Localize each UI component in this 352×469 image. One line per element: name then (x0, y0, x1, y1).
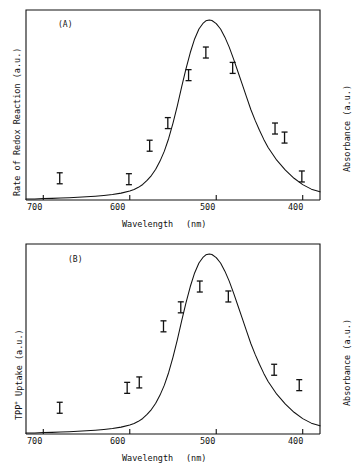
data-point-marker (186, 70, 192, 81)
panel-b-plot (0, 234, 351, 469)
panel-b-xtick-700: 700 (27, 436, 42, 446)
panel-b-y-right-title: Absorbance (a.u.) (342, 319, 352, 406)
panel-a-label: (A) (58, 20, 72, 29)
panel-a-x-units: (nm) (186, 219, 206, 229)
panel-a-xtick-600: 600 (110, 202, 125, 212)
panel-a-x-title: Wavelength (122, 219, 173, 229)
data-point-marker (203, 47, 209, 58)
panel-a-y-left-title: Rate of Redox Reaction (a.u.) (12, 48, 22, 196)
data-point-marker (197, 281, 203, 292)
panel-b: (B) TPP+ Uptake (a.u.) Absorbance (a.u.)… (0, 234, 351, 469)
plot-frame (26, 244, 320, 434)
panel-a-xtick-400: 400 (288, 202, 303, 212)
data-point-marker (57, 173, 63, 184)
panel-a-plot (0, 0, 351, 235)
panel-b-y-left-title-post: Uptake (a.u.) (14, 329, 24, 401)
panel-b-y-left-title-pre: TPP (14, 405, 24, 420)
spectrum-curve (26, 20, 320, 199)
panel-b-x-units: (nm) (186, 453, 206, 463)
panel-b-y-left-title-sup: + (12, 401, 19, 405)
data-point-marker (160, 321, 166, 332)
data-point-marker (225, 291, 231, 302)
data-point-marker (271, 364, 277, 375)
panel-a-xtick-500: 500 (200, 202, 215, 212)
panel-b-label: (B) (68, 255, 82, 264)
data-point-marker (124, 382, 130, 393)
panel-a: (A) Rate of Redox Reaction (a.u.) Absorb… (0, 0, 351, 235)
spectrum-curve (26, 254, 320, 433)
panel-a-y-right-title: Absorbance (a.u.) (342, 85, 352, 172)
panel-b-xtick-600: 600 (110, 436, 125, 446)
data-point-marker (126, 174, 132, 185)
panel-b-xtick-400: 400 (288, 436, 303, 446)
data-point-marker (178, 302, 184, 313)
panel-b-y-left-title: TPP+ Uptake (a.u.) (12, 329, 24, 420)
plot-frame (26, 10, 320, 200)
panel-b-x-title: Wavelength (122, 453, 173, 463)
data-point-marker (299, 171, 305, 182)
data-point-marker (57, 402, 63, 413)
data-point-marker (272, 123, 278, 134)
data-point-marker (165, 118, 171, 129)
data-point-marker (136, 377, 142, 388)
data-point-marker (282, 132, 288, 143)
data-point-marker (147, 140, 153, 151)
data-point-marker (296, 380, 302, 391)
panel-a-xtick-700: 700 (27, 202, 42, 212)
panel-b-xtick-500: 500 (200, 436, 215, 446)
